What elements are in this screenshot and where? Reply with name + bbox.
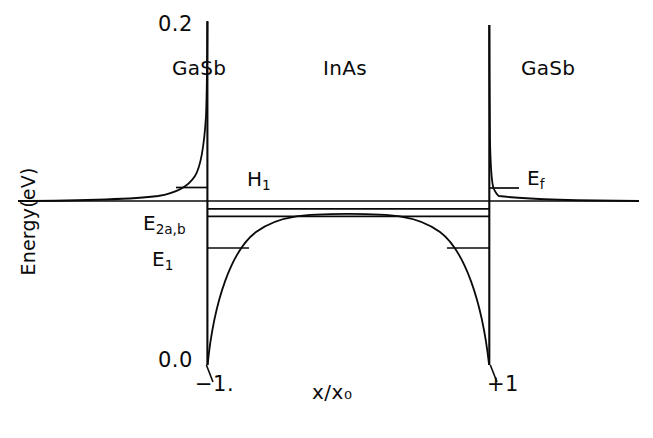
y-axis-tick-top: 0.2	[158, 14, 193, 35]
region-label-left-gasb: GaSb	[172, 58, 226, 78]
y-axis-tick-bottom: 0.0	[158, 350, 193, 371]
level-label-e2ab: E2a,b	[143, 213, 186, 233]
left-barrier-band-tail	[18, 22, 207, 201]
well-parabola	[208, 214, 490, 365]
level-label-h1: H1	[247, 169, 271, 189]
x-axis-label: x/x₀	[312, 382, 352, 402]
y-axis-label: Energy(eV)	[19, 132, 38, 312]
right-barrier-band-tail	[489, 25, 639, 201]
level-label-ef: Ef	[527, 168, 544, 188]
band-diagram-figure: Energy(eV) 0.2 0.0 −1. +1 x/x₀ GaSb InAs…	[0, 0, 653, 438]
level-label-h1-sub: 1	[262, 177, 271, 193]
level-label-h1-main: H	[247, 167, 262, 191]
region-label-right-gasb: GaSb	[521, 58, 575, 78]
level-label-e2ab-sub: 2a,b	[156, 221, 186, 237]
level-label-e1-main: E	[152, 247, 165, 271]
x-axis-tick-left: −1.	[195, 374, 234, 395]
x-axis-tick-right: +1	[487, 374, 519, 395]
level-label-ef-sub: f	[540, 176, 545, 192]
level-label-e2ab-main: E	[143, 211, 156, 235]
level-label-e1-sub: 1	[165, 257, 174, 273]
region-label-center-inas: InAs	[323, 58, 367, 78]
level-label-e1: E1	[152, 249, 173, 269]
level-label-ef-main: E	[527, 166, 540, 190]
